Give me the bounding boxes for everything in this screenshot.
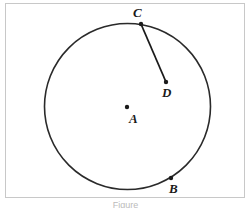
segment-CD [141,24,166,82]
label-B: B [168,181,178,196]
label-D: D [161,85,172,100]
circle-diagram: ABCD [0,0,251,208]
label-A: A [128,111,138,126]
point-A [125,105,129,109]
point-D [164,80,168,84]
figure-caption: Figure [0,201,251,208]
point-C [139,22,143,26]
label-C: C [133,5,142,20]
point-B [169,176,173,180]
